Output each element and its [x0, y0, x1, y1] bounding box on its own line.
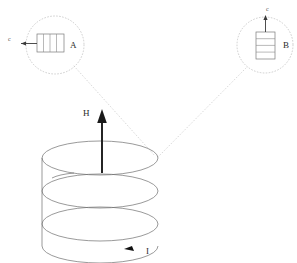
inset-a-c-label: c [8, 36, 11, 42]
figure-root: c A c B [0, 0, 297, 263]
inset-a-coil-icon [37, 34, 64, 52]
inset-b-c-arrow [263, 15, 267, 32]
inset-b-label: B [283, 40, 289, 50]
leader-line-inset-b [158, 68, 246, 157]
coil-turn-3 [42, 207, 158, 241]
coil-tail [42, 236, 158, 263]
coil-turn-1 [42, 141, 158, 175]
inset-a: c A [8, 16, 84, 74]
inset-a-c-arrow [21, 41, 37, 45]
inset-b-c-arrow-head [263, 15, 267, 20]
coil-inner-detail [52, 173, 74, 178]
current-arrow [124, 246, 134, 251]
main-solenoid-coil [42, 141, 158, 263]
inset-a-c-arrow-head [21, 41, 26, 45]
inset-b-c-label: c [266, 6, 269, 12]
field-label: H [83, 108, 90, 118]
solenoid-diagram: c A c B [0, 0, 297, 263]
current-arrow-head [124, 246, 134, 251]
inset-a-label: A [70, 40, 77, 50]
coil-turn-2 [42, 174, 158, 208]
inset-b-coil-icon [256, 32, 275, 59]
leader-lines [74, 66, 246, 157]
field-arrow-head [97, 109, 107, 123]
current-label: I [146, 246, 149, 256]
inset-b: c B [237, 6, 293, 73]
inset-a-coil-body [37, 34, 64, 52]
